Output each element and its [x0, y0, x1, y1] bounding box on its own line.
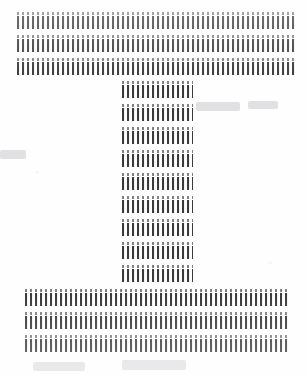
- bar-band: [25, 293, 288, 306]
- texture-row-stem-4: [122, 173, 193, 190]
- bar-band: [17, 62, 297, 75]
- bar-band: [122, 154, 193, 167]
- texture-row-stem-5: [122, 196, 193, 213]
- scanned-page-canvas: [0, 0, 307, 375]
- texture-row-crossbar-0: [17, 12, 297, 29]
- texture-row-stem-2: [122, 127, 193, 144]
- texture-row-crossbar-1: [17, 35, 297, 52]
- bar-band: [17, 16, 297, 29]
- bar-band: [122, 200, 193, 213]
- dot-band: [17, 12, 297, 15]
- ghost-mark-3: [33, 362, 85, 371]
- texture-row-stem-6: [122, 219, 193, 236]
- dot-band: [25, 312, 288, 315]
- bar-band: [17, 39, 297, 52]
- dot-band: [25, 289, 288, 292]
- bar-band: [122, 246, 193, 259]
- texture-row-base-0: [25, 289, 288, 306]
- dot-band: [122, 242, 193, 245]
- texture-row-stem-1: [122, 104, 193, 121]
- dot-band: [122, 104, 193, 107]
- bar-band: [122, 85, 193, 98]
- bar-band: [25, 316, 288, 329]
- texture-row-stem-0: [122, 81, 193, 98]
- texture-row-base-1: [25, 312, 288, 329]
- ghost-mark-1: [196, 102, 240, 111]
- texture-row-stem-7: [122, 242, 193, 259]
- dot-band: [122, 81, 193, 84]
- bar-band: [25, 339, 288, 352]
- dot-band: [122, 196, 193, 199]
- dot-band: [17, 35, 297, 38]
- dot-band: [122, 173, 193, 176]
- dot-band: [122, 265, 193, 268]
- dot-band: [122, 150, 193, 153]
- bar-band: [122, 131, 193, 144]
- dot-band: [17, 58, 297, 61]
- bar-band: [122, 223, 193, 236]
- ghost-mark-0: [0, 150, 26, 159]
- bar-band: [122, 177, 193, 190]
- dot-band: [25, 335, 288, 338]
- texture-row-stem-3: [122, 150, 193, 167]
- bar-band: [122, 108, 193, 121]
- texture-row-stem-8: [122, 265, 193, 282]
- texture-row-base-2: [25, 335, 288, 352]
- dot-band: [122, 127, 193, 130]
- dot-band: [122, 219, 193, 222]
- bar-band: [122, 269, 193, 282]
- ghost-mark-2: [248, 101, 278, 109]
- texture-row-crossbar-2: [17, 58, 297, 75]
- ghost-mark-4: [122, 360, 186, 370]
